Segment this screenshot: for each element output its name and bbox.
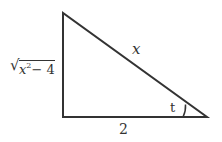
sqrt-symbol: √: [10, 58, 20, 73]
right-triangle-diagram: x 2 t √ x2− 4: [0, 0, 222, 142]
angle-label: t: [170, 101, 175, 114]
radicand: x2− 4: [19, 60, 55, 76]
triangle-shape: [63, 13, 207, 117]
radicand-rest: − 4: [31, 62, 54, 77]
vertical-side-label: √ x2− 4: [10, 60, 55, 76]
angle-arc-t: [183, 105, 186, 118]
hypotenuse-label: x: [132, 42, 140, 57]
sqrt-expression: √ x2− 4: [10, 60, 55, 76]
base-label: 2: [119, 122, 128, 136]
